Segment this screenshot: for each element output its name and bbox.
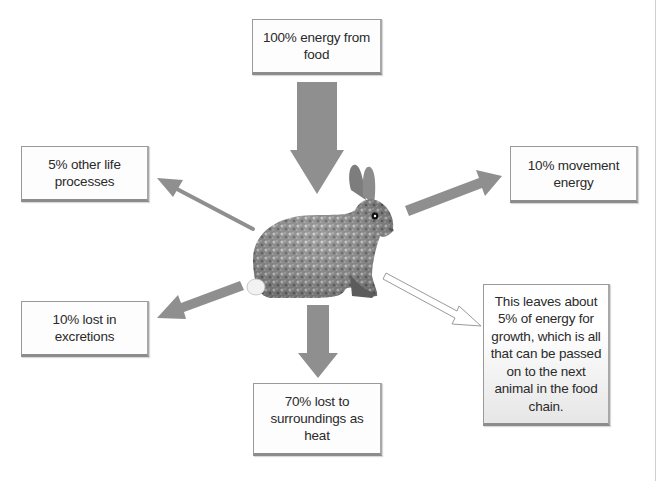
box-food-energy: 100% energy from food xyxy=(252,19,382,75)
box-growth-energy-text: This leaves about 5% of energy for growt… xyxy=(490,293,602,416)
box-food-energy-text: 100% energy from food xyxy=(262,29,372,63)
box-heat-loss: 70% lost to surroundings as heat xyxy=(253,383,382,456)
box-excretions-text: 10% lost in excretions xyxy=(40,311,130,345)
box-movement-energy: 10% movement energy xyxy=(510,146,638,203)
box-movement-energy-text: 10% movement energy xyxy=(524,157,624,191)
box-heat-loss-text: 70% lost to surroundings as heat xyxy=(267,393,367,444)
page-edge-rule xyxy=(655,0,656,481)
box-growth-energy: This leaves about 5% of energy for growt… xyxy=(483,284,610,426)
box-other-life-processes-text: 5% other life processes xyxy=(35,156,135,190)
box-excretions: 10% lost in excretions xyxy=(21,301,149,357)
box-other-life-processes: 5% other life processes xyxy=(21,146,149,202)
